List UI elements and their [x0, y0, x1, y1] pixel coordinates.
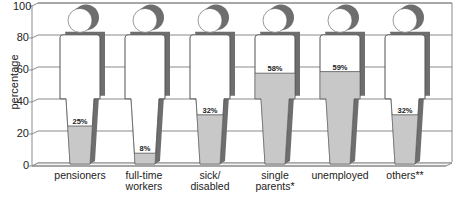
value-label: 8%: [140, 144, 151, 153]
person-figure-1: 8%: [123, 4, 170, 166]
person-pictogram-chart: 25%8%32%58%59%32% percentage 0 20 40 60 …: [0, 0, 456, 198]
head: [328, 8, 352, 32]
person-figure-5: 32%: [383, 4, 430, 166]
category-label-line: parents*: [235, 181, 315, 192]
value-label: 32%: [202, 106, 217, 115]
value-label: 25%: [72, 117, 87, 126]
person-figure-2: 32%: [188, 4, 235, 166]
head: [198, 8, 222, 32]
head: [393, 8, 417, 32]
gridline-diag: [32, 67, 38, 70]
y-tick-100: 100: [13, 0, 29, 12]
category-label-others: others**: [365, 170, 445, 181]
gridline-diag: [32, 35, 38, 38]
y-tick-20: 20: [13, 127, 29, 139]
category-label-line: others**: [365, 170, 445, 181]
head: [133, 8, 157, 32]
person-figure-4: 59%: [318, 4, 365, 166]
head: [68, 8, 92, 32]
value-label: 32%: [397, 106, 412, 115]
y-tick-80: 80: [13, 31, 29, 43]
person-figure-3: 58%: [253, 4, 300, 166]
gridline-diag: [32, 99, 38, 102]
person-figure-0: 25%: [58, 4, 105, 166]
value-label: 59%: [332, 63, 347, 72]
head: [263, 8, 287, 32]
gridline-diag: [32, 3, 38, 6]
y-tick-60: 60: [13, 63, 29, 75]
y-tick-0: 0: [13, 159, 29, 171]
y-tick-40: 40: [13, 95, 29, 107]
gridline-diag: [32, 131, 38, 134]
value-label: 58%: [267, 64, 282, 73]
